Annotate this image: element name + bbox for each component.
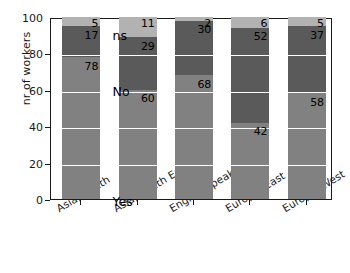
value-label: 2 <box>173 17 211 30</box>
value-label: 5 <box>286 17 324 30</box>
value-label: 52 <box>229 30 267 43</box>
value-label: 5 <box>60 17 98 30</box>
y-axis-tick-label: 80 <box>0 48 43 61</box>
value-label: 42 <box>229 125 267 138</box>
bar-segment-yes[interactable] <box>119 90 157 199</box>
bar-segment-yes[interactable] <box>288 93 326 199</box>
bars-layer <box>51 19 331 199</box>
y-axis-tick-label: 20 <box>0 157 43 170</box>
value-label: 78 <box>60 60 98 73</box>
bar-segment-yes[interactable] <box>175 75 213 199</box>
series-label-no: No <box>113 84 130 99</box>
series-label-yes: Yes <box>113 194 133 209</box>
value-label: 17 <box>60 29 98 42</box>
plot-area: 78175602911683024252658375nsNoYes <box>50 18 332 200</box>
value-label: 37 <box>286 29 324 42</box>
y-axis-tick-label: 100 <box>0 12 43 25</box>
y-axis-tick-label: 0 <box>0 194 43 207</box>
value-label: 58 <box>286 96 324 109</box>
y-axis-tick-label: 60 <box>0 84 43 97</box>
y-axis-tick-mark <box>45 200 50 201</box>
bar-segment-yes[interactable] <box>62 57 100 199</box>
series-label-ns: ns <box>113 28 127 43</box>
value-label: 6 <box>229 17 267 30</box>
y-axis-tick-label: 40 <box>0 121 43 134</box>
stacked-bar-chart: nr of workers 020406080100 7817560291168… <box>0 0 350 273</box>
value-label: 68 <box>173 78 211 91</box>
